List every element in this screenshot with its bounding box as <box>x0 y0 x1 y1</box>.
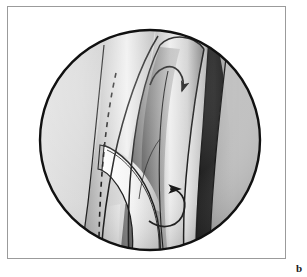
illustration-body <box>8 7 285 258</box>
figure-frame-border <box>7 6 286 259</box>
panel-label: b <box>296 263 302 274</box>
figure-panel: b <box>0 0 307 277</box>
circular-viewport-contents <box>8 7 285 258</box>
sphere-shading-overlay <box>8 7 285 258</box>
surgical-illustration <box>8 7 285 258</box>
